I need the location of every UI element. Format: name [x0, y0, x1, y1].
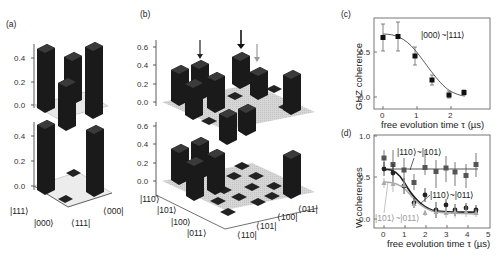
svg-text:⟨101|: ⟨101|	[256, 221, 276, 231]
panel-c: (c) GHZ coherence 0 1 2 0.0 0.5 free evo…	[341, 9, 490, 130]
svg-text:0.0: 0.0	[359, 93, 371, 102]
svg-text:0.6: 0.6	[137, 122, 149, 131]
svg-text:⟨111|: ⟨111|	[71, 218, 90, 228]
panel-a: (a) 0.0 0.2 0.4	[6, 19, 123, 228]
svg-text:|100⟩: |100⟩	[171, 217, 191, 227]
svg-text:|111⟩: |111⟩	[10, 206, 29, 216]
svg-text:⟨100|: ⟨100|	[277, 212, 297, 222]
svg-text:0.4: 0.4	[137, 140, 149, 149]
svg-text:1.0: 1.0	[359, 132, 371, 141]
panel-d-label: (d)	[341, 128, 352, 138]
panel-a-bottom-zaxis: 0.0 0.2 0.4	[14, 122, 34, 191]
svg-text:|011⟩: |011⟩	[187, 228, 207, 238]
svg-text:0.5: 0.5	[359, 48, 371, 57]
panel-c-fit-curve	[383, 34, 465, 96]
panel-d-annotation-110-101: |110⟩~|101⟩	[397, 147, 442, 157]
svg-text:0.2: 0.2	[137, 159, 149, 168]
svg-text:|110⟩: |110⟩	[140, 194, 160, 204]
svg-text:⟨000|: ⟨000|	[103, 206, 123, 216]
svg-text:0.4: 0.4	[137, 61, 149, 70]
panel-d-xlabel: free evolution time τ (µs)	[387, 238, 490, 249]
svg-text:0.2: 0.2	[14, 157, 26, 166]
panel-d: (d) W coherences 0 1 2 3 4 5 0.0 0.5 1.0…	[341, 128, 491, 249]
svg-text:0.2: 0.2	[14, 78, 26, 87]
panel-a-label: (a)	[6, 19, 17, 29]
panel-c-markers	[381, 34, 467, 98]
figure: (a) 0.0 0.2 0.4	[0, 0, 504, 260]
svg-text:|000⟩: |000⟩	[34, 218, 54, 228]
svg-text:|101⟩: |101⟩	[157, 205, 177, 215]
svg-text:0.6: 0.6	[137, 43, 149, 52]
panel-b-top-zaxis: 0.0 0.2 0.4 0.6	[137, 40, 156, 107]
svg-text:⟨110|: ⟨110|	[237, 230, 257, 240]
panel-d-annotation-110-011: |110⟩~|011⟩	[430, 190, 474, 200]
panel-b-label: (b)	[140, 9, 151, 19]
panel-b-arrows	[197, 30, 260, 62]
svg-text:⟨011|: ⟨011|	[298, 204, 318, 214]
svg-text:0.0: 0.0	[137, 177, 149, 186]
svg-text:0.4: 0.4	[14, 54, 26, 63]
panel-a-top-zaxis: 0.0 0.2 0.4	[14, 44, 34, 110]
panel-c-xlabel: free evolution time τ (µs)	[381, 119, 484, 130]
svg-text:0.0: 0.0	[14, 101, 26, 110]
panel-a-top-bars	[37, 42, 103, 131]
panel-d-annotation-101-011: |101⟩~|011⟩	[375, 213, 420, 223]
panel-c-annotation: |000⟩~|111⟩	[421, 30, 465, 40]
svg-text:0.0: 0.0	[14, 182, 26, 191]
svg-text:0.5: 0.5	[359, 173, 371, 182]
svg-text:0.4: 0.4	[14, 132, 26, 141]
panel-a-axis-labels: |111⟩ |000⟩ ⟨111| ⟨000|	[10, 206, 123, 228]
svg-text:0.2: 0.2	[137, 80, 149, 89]
panel-b: (b) 0.0 0.2 0.4 0.6	[137, 9, 318, 240]
svg-text:0.0: 0.0	[137, 98, 149, 107]
panel-c-label: (c)	[341, 9, 351, 19]
svg-text:0.0: 0.0	[359, 215, 371, 224]
panel-b-bottom-zaxis: 0.0 0.2 0.4 0.6	[137, 122, 156, 197]
svg-text:0: 0	[381, 230, 386, 239]
